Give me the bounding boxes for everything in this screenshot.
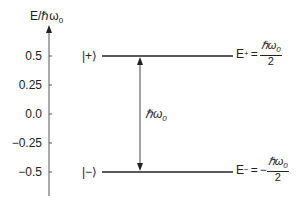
lower-energy-equation: E− = − ℏω0 2 <box>236 156 289 183</box>
lower-state-label: |−⟩ <box>82 166 97 178</box>
arrow-up-icon <box>137 57 143 65</box>
upper-state-label: |+⟩ <box>82 50 97 62</box>
tick-label: −0.25 <box>6 137 42 149</box>
arrow-down-icon <box>137 163 143 171</box>
upper-energy-fraction: ℏω0 2 <box>260 40 282 67</box>
tick-label: 0.25 <box>6 79 42 91</box>
tick-label: −0.5 <box>6 166 42 178</box>
tick-label: 0.5 <box>6 50 42 62</box>
upper-energy-equation: E+ = ℏω0 2 <box>236 40 282 67</box>
tick-label: 0.0 <box>6 108 42 120</box>
y-axis-label: E/ℏω0 <box>30 10 63 27</box>
lower-energy-fraction: ℏω0 2 <box>267 156 289 183</box>
gap-label: ℏω0 <box>145 108 167 125</box>
